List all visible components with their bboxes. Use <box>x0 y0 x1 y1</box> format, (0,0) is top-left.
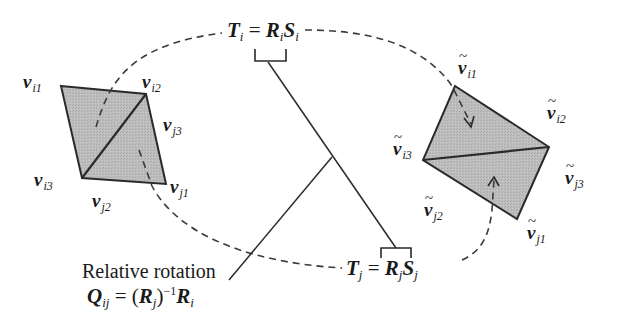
vertex-label-tilde-vi1: vi1 <box>458 58 477 80</box>
diagram-canvas: vi1 vi2 vj3 vi3 vj2 vj1 vi1 vi2 vi3 vj3 … <box>0 0 620 313</box>
left-mesh <box>61 86 166 184</box>
bracket-ri-si <box>255 49 286 61</box>
vertex-label-vj2: vj2 <box>92 191 111 213</box>
equation-transform-i: Ti = RiSi <box>227 20 299 43</box>
connector-ri-rj <box>268 62 396 248</box>
vertex-label-tilde-vj3: vj3 <box>565 168 584 190</box>
vertex-label-vj1: vj1 <box>170 177 189 199</box>
vertex-label-tilde-vi3: vi3 <box>393 139 412 161</box>
vertex-label-vi1: vi1 <box>23 72 42 94</box>
equation-transform-j: Tj = RjSj <box>346 258 418 281</box>
vertex-label-vj3: vj3 <box>163 115 182 137</box>
vertex-label-tilde-vj2: vj2 <box>424 200 443 222</box>
equation-relative-rotation: Qij = (Rj)−1Ri <box>87 285 194 309</box>
connector-relative-rotation <box>229 157 332 280</box>
lower-dashed-path-left <box>139 150 342 268</box>
relative-rotation-caption: Relative rotation <box>82 261 216 281</box>
vertex-label-vi3: vi3 <box>34 170 53 192</box>
vertex-label-tilde-vi2: vi2 <box>547 103 566 125</box>
vertex-label-tilde-vj1: vj1 <box>527 223 546 245</box>
vertex-label-vi2: vi2 <box>142 72 161 94</box>
